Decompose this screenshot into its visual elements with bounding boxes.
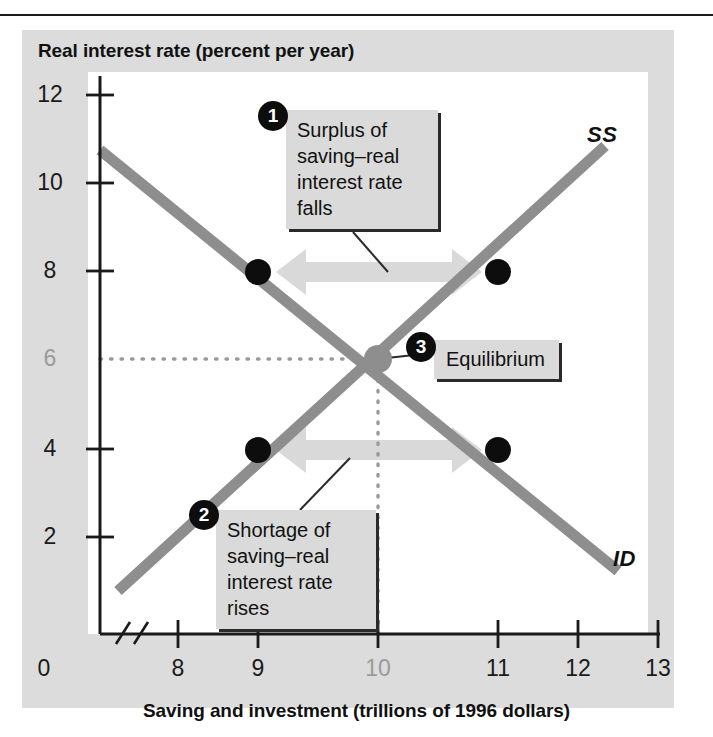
- y-tick-8: 8: [22, 257, 78, 284]
- x-tick-0: 0: [20, 655, 68, 682]
- x-tick-12: 12: [554, 655, 602, 682]
- y-tick-6: 6: [22, 345, 78, 372]
- point-saving-8: [245, 259, 271, 285]
- y-tick-10: 10: [22, 169, 78, 196]
- point-saving-4: [245, 437, 271, 463]
- callout-surplus: Surplus of saving–real interest rate fal…: [286, 110, 438, 229]
- curve-label-ss: SS: [587, 122, 617, 148]
- x-tick-13: 13: [634, 655, 682, 682]
- callout-shortage: Shortage of saving–real interest rate ri…: [216, 510, 376, 629]
- x-tick-11: 11: [474, 655, 522, 682]
- callout-badge-2: 2: [189, 500, 219, 530]
- point-investment-4: [485, 437, 511, 463]
- y-tick-4: 4: [22, 435, 78, 462]
- figure-container: Real interest rate (percent per year) Sa…: [0, 0, 713, 737]
- y-axis-title: Real interest rate (percent per year): [38, 40, 354, 62]
- y-tick-2: 2: [22, 523, 78, 550]
- x-tick-9: 9: [234, 655, 282, 682]
- point-equilibrium: [364, 345, 392, 373]
- callout-badge-3: 3: [406, 332, 436, 362]
- y-tick-12: 12: [22, 81, 78, 108]
- x-axis-title: Saving and investment (trillions of 1996…: [0, 700, 713, 722]
- curve-label-id: ID: [613, 546, 636, 572]
- point-investment-8: [485, 259, 511, 285]
- x-tick-10: 10: [354, 655, 402, 682]
- callout-equilibrium: Equilibrium: [434, 340, 559, 379]
- x-tick-8: 8: [154, 655, 202, 682]
- callout-badge-1: 1: [258, 101, 288, 131]
